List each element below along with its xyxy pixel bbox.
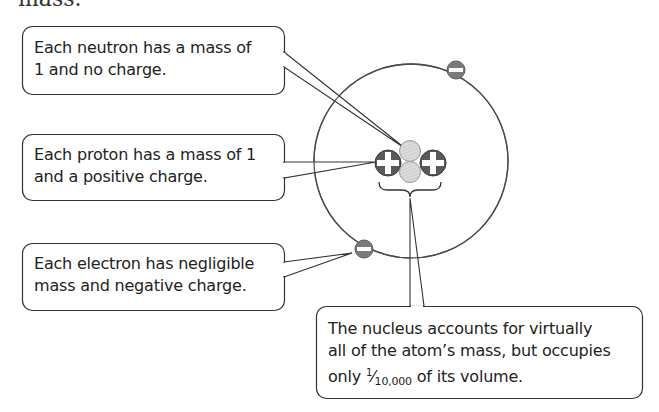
electron-pointer: [284, 253, 352, 277]
proton-right: [420, 150, 446, 176]
proton-pointer: [284, 162, 376, 178]
nucleus-callout-line-1: The nucleus accounts for virtually: [328, 318, 630, 340]
fraction: 1⁄10,000: [366, 367, 412, 386]
electron-top: [447, 61, 465, 79]
nucleus-callout-line-3: only 1⁄10,000 of its volume.: [328, 362, 630, 393]
neutron-top: [400, 141, 421, 162]
nucleus-callout: The nucleus accounts for virtually all o…: [318, 310, 640, 401]
neutron-callout: Each neutron has a mass of 1 and no char…: [24, 29, 282, 89]
neutron-callout-line-1: Each neutron has a mass of: [34, 37, 272, 59]
nucleus-pointer: [410, 198, 424, 306]
neutron-callout-line-2: 1 and no charge.: [34, 59, 272, 81]
nucleus-callout-line-2: all of the atom’s mass, but occupies: [328, 340, 630, 362]
proton-callout: Each proton has a mass of 1 and a positi…: [24, 136, 282, 196]
fraction-numerator: 1: [366, 367, 372, 378]
electron-callout-line-2: mass and negative charge.: [34, 275, 272, 297]
electron-callout-line-1: Each electron has negligible: [34, 253, 272, 275]
neutron-bottom: [400, 162, 421, 183]
proton-left: [375, 150, 401, 176]
line3-prefix: only: [328, 367, 366, 386]
proton-callout-line-2: and a positive charge.: [34, 166, 272, 188]
electron-callout: Each electron has negligible mass and ne…: [24, 245, 282, 305]
fraction-denominator: 10,000: [375, 375, 412, 388]
line3-suffix: of its volume.: [412, 367, 523, 386]
proton-callout-line-1: Each proton has a mass of 1: [34, 144, 272, 166]
electron-bottom: [355, 240, 373, 258]
nucleus-brace: [379, 182, 441, 197]
